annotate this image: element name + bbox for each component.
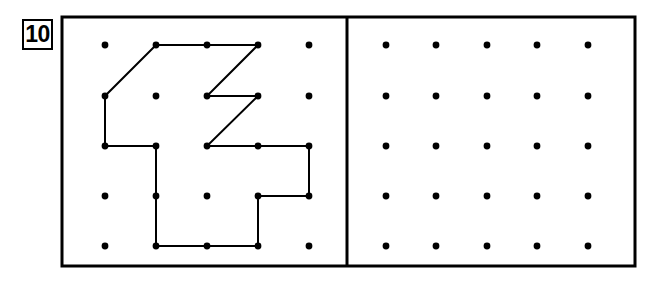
- left-peg-r1-c1: [153, 93, 160, 100]
- right-peg-r0-c3[interactable]: [534, 42, 541, 49]
- right-peg-r4-c4[interactable]: [585, 243, 592, 250]
- left-peg-r0-c0: [102, 42, 109, 49]
- right-peg-r2-c4[interactable]: [585, 143, 592, 150]
- left-peg-r4-c4: [306, 243, 313, 250]
- right-peg-r4-c2[interactable]: [484, 243, 491, 250]
- right-peg-r3-c4[interactable]: [585, 193, 592, 200]
- right-peg-r4-c3[interactable]: [534, 243, 541, 250]
- left-peg-r4-c0: [102, 243, 109, 250]
- right-peg-r1-c4[interactable]: [585, 93, 592, 100]
- right-peg-r3-c0[interactable]: [383, 193, 390, 200]
- right-peg-r2-c0[interactable]: [383, 143, 390, 150]
- geoboard-diagram: [0, 0, 654, 282]
- right-peg-r4-c0[interactable]: [383, 243, 390, 250]
- right-peg-r2-c3[interactable]: [534, 143, 541, 150]
- left-peg-r0-c4: [306, 42, 313, 49]
- right-peg-r0-c4[interactable]: [585, 42, 592, 49]
- right-peg-r1-c2[interactable]: [484, 93, 491, 100]
- right-peg-r1-c0[interactable]: [383, 93, 390, 100]
- left-peg-r3-c0: [102, 193, 109, 200]
- worksheet-problem: 10: [0, 0, 654, 282]
- left-peg-r3-c2: [204, 193, 211, 200]
- right-peg-r1-c3[interactable]: [534, 93, 541, 100]
- right-peg-r1-c1[interactable]: [433, 93, 440, 100]
- right-peg-r0-c0[interactable]: [383, 42, 390, 49]
- right-peg-r4-c1[interactable]: [433, 243, 440, 250]
- right-peg-r3-c3[interactable]: [534, 193, 541, 200]
- right-peg-r3-c2[interactable]: [484, 193, 491, 200]
- left-peg-r1-c4: [306, 93, 313, 100]
- right-peg-r3-c1[interactable]: [433, 193, 440, 200]
- right-peg-r0-c2[interactable]: [484, 42, 491, 49]
- right-peg-r0-c1[interactable]: [433, 42, 440, 49]
- right-peg-r2-c1[interactable]: [433, 143, 440, 150]
- right-peg-r2-c2[interactable]: [484, 143, 491, 150]
